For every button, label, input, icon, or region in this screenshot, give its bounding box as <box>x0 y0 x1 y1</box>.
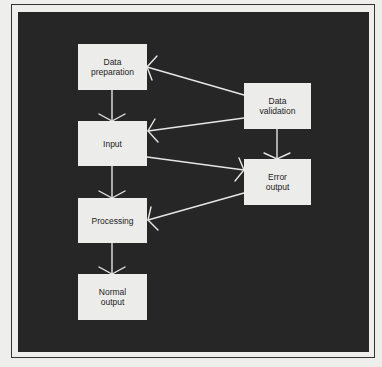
edge-error-output-to-processing <box>148 193 244 230</box>
edge-input-to-error-output <box>147 157 244 181</box>
node-data-validation: Data validation <box>244 83 311 129</box>
node-label: Processing <box>91 216 133 226</box>
node-input: Input <box>78 121 147 166</box>
edge-data-preparation-to-input <box>99 90 125 121</box>
edge-processing-to-normal-output <box>99 243 125 274</box>
node-label: Data preparation <box>91 57 134 77</box>
node-label: Error output <box>266 172 290 192</box>
node-processing: Processing <box>78 198 147 243</box>
node-label: Normal output <box>99 287 126 307</box>
edge-data-validation-to-data-preparation <box>147 56 244 95</box>
node-label: Input <box>103 139 122 149</box>
node-data-preparation: Data preparation <box>78 44 147 90</box>
node-error-output: Error output <box>244 159 311 205</box>
edge-data-validation-to-input <box>148 118 244 142</box>
edge-input-to-processing <box>99 166 125 198</box>
edge-data-validation-to-error-output <box>264 129 290 159</box>
node-label: Data validation <box>260 96 296 116</box>
connectors <box>0 0 382 367</box>
node-normal-output: Normal output <box>78 274 147 320</box>
